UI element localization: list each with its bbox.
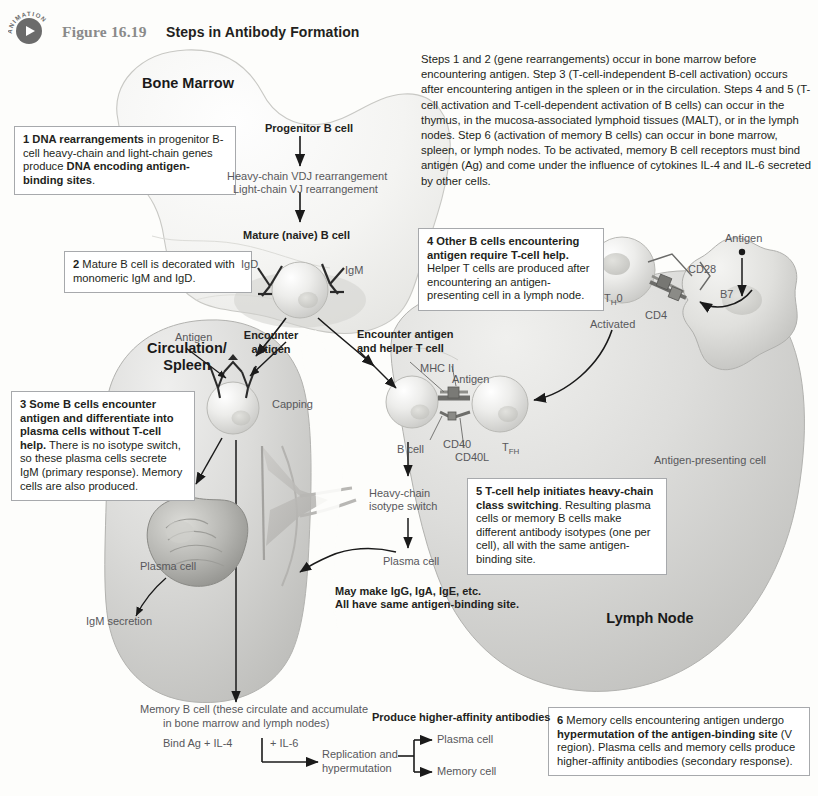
- step-1-bold-lead: DNA rearrangements: [32, 133, 144, 145]
- label-cd40: CD40: [443, 438, 471, 452]
- step-4-text: Helper T cells are produced after encoun…: [427, 262, 590, 301]
- step-box-1: 1 DNA rearrangements in progenitor B-cel…: [14, 126, 236, 195]
- step-5-number: 5: [476, 485, 482, 497]
- label-il6: + IL-6: [270, 737, 298, 751]
- step-4-bold-lead: Other B cells encountering antigen requi…: [427, 235, 579, 261]
- step-box-4: 4 Other B cells encountering antigen req…: [418, 228, 604, 311]
- label-antigen-left: Antigen: [175, 331, 212, 345]
- step-6-text: Memory cells encountering antigen underg…: [566, 714, 784, 726]
- step-2-text: Mature B cell is decorated with monomeri…: [73, 258, 235, 284]
- label-may-make-line2: All have same antigen-binding site.: [335, 598, 519, 612]
- antigen-dot-right: [739, 249, 745, 255]
- label-progenitor-b-cell: Progenitor B cell: [265, 122, 353, 136]
- label-capping: Capping: [272, 398, 313, 412]
- organ-label-bone-marrow: Bone Marrow: [118, 75, 258, 92]
- step-1-number: 1: [23, 133, 29, 145]
- organ-label-lymph-node: Lymph Node: [570, 610, 730, 627]
- label-mhc-ii: MHC II: [420, 362, 454, 376]
- label-heavy-chain-isotype-switch: Heavy-chain isotype switch: [369, 487, 437, 513]
- play-icon: [26, 26, 35, 36]
- intro-paragraph: Steps 1 and 2 (gene rearrangements) occu…: [421, 52, 813, 189]
- label-cd40l: CD40L: [455, 451, 489, 465]
- label-antigen-mid: Antigen: [452, 373, 489, 387]
- lymphnode-b-cell: [386, 376, 438, 428]
- label-replication-line1: Replication and: [322, 748, 398, 762]
- label-encounter-antigen: Encounter antigen: [225, 329, 317, 356]
- step-box-2: 2 Mature B cell is decorated with monome…: [64, 251, 252, 293]
- label-th0: TH0: [604, 292, 623, 310]
- label-bind-ag-il4: Bind Ag + IL-4: [163, 737, 232, 751]
- arrow-plasma-to-spleen: [300, 549, 396, 572]
- label-antigen-right: Antigen: [725, 232, 762, 246]
- step-6-bold-tail: hypermutation of the antigen-binding sit…: [557, 728, 778, 740]
- label-encounter-antigen-helper-t: Encounter antigen and helper T cell: [357, 327, 454, 355]
- label-antigen-presenting-cell: Antigen-presenting cell: [654, 454, 766, 468]
- label-produce-higher-affinity: Produce higher-affinity antibodies: [372, 711, 550, 725]
- label-b7: B7: [720, 288, 733, 302]
- label-activated: Activated: [590, 318, 635, 332]
- figure-number: Figure 16.19: [62, 23, 147, 41]
- label-light-chain-vj: Light-chain VJ rearrangement: [233, 183, 378, 197]
- label-b-cell: B cell: [397, 443, 424, 457]
- step-6-number: 6: [557, 714, 563, 726]
- label-igm: IgM: [345, 264, 363, 278]
- step-box-6: 6 Memory cells encountering antigen unde…: [548, 707, 810, 776]
- figure-canvas: ANIMATION Figure 16.19 Steps in Antibody…: [0, 0, 818, 796]
- label-may-make-line1: May make IgG, IgA, IgE, etc.: [335, 585, 481, 599]
- label-memory-cell-bottom: Memory cell: [437, 765, 496, 779]
- animation-badge[interactable]: ANIMATION: [8, 8, 50, 50]
- step-4-number: 4: [427, 235, 433, 247]
- label-plasma-cell-bottom: Plasma cell: [437, 733, 493, 747]
- page-title: Steps in Antibody Formation: [166, 24, 360, 40]
- label-heavy-chain-vdj: Heavy-chain VDJ rearrangement: [227, 170, 387, 184]
- label-memory-b-cell-line2: in bone marrow and lymph nodes): [163, 717, 329, 731]
- label-igm-secretion: IgM secretion: [86, 615, 152, 629]
- label-cd28: CD28: [688, 263, 716, 277]
- label-replication-line2: hypermutation: [322, 762, 392, 776]
- step-2-number: 2: [73, 258, 79, 270]
- label-cd4: CD4: [645, 309, 667, 323]
- label-mature-naive-b-cell: Mature (naive) B cell: [243, 229, 350, 243]
- step-box-3: 3 Some B cells encounter antigen and dif…: [11, 391, 195, 501]
- label-plasma-cell-left: Plasma cell: [140, 560, 196, 574]
- label-igd: IgD: [241, 258, 258, 272]
- arrow-encounter-antigen-helper: [360, 352, 396, 388]
- label-tfh: TFH: [502, 441, 519, 459]
- label-memory-b-cell-line1: Memory B cell (these circulate and accum…: [140, 703, 368, 717]
- step-3-number: 3: [20, 398, 26, 410]
- step-1-tail: .: [92, 174, 95, 186]
- label-plasma-cell-mid: Plasma cell: [383, 555, 439, 569]
- step-box-5: 5 T-cell help initiates heavy-chain clas…: [467, 478, 667, 575]
